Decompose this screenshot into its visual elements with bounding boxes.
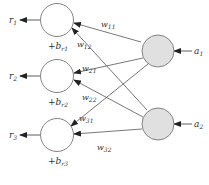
bias-label-r1: +br1 (48, 41, 68, 52)
input-label-a1: a1 (194, 46, 203, 57)
input-neuron-a2 (142, 108, 174, 140)
weight-label-w31: w31 (79, 114, 94, 124)
output-neuron-r2 (41, 60, 74, 93)
weight-label-w32: w32 (97, 143, 112, 153)
input-neuron-a1 (142, 35, 174, 67)
bias-label-r2: +br2 (48, 97, 68, 108)
input-label-a2: a2 (194, 119, 203, 130)
output-neuron-r1 (41, 4, 74, 37)
connection-w32 (74, 129, 142, 134)
output-label-r2: r2 (9, 71, 17, 82)
bias-label-r3: +br3 (48, 156, 68, 167)
output-label-r1: r1 (9, 15, 17, 26)
output-label-r3: r3 (9, 130, 17, 141)
output-neuron-r3 (41, 119, 74, 152)
weight-label-w21: w21 (82, 64, 97, 74)
weight-label-w11: w11 (101, 20, 116, 30)
output-arrows (20, 20, 40, 135)
input-arrows (174, 51, 192, 124)
network-diagram: r1 r2 r3 +br1 +br2 +br3 a1 a2 w11 w12 w2… (0, 0, 209, 185)
weight-label-w22: w22 (82, 93, 97, 103)
